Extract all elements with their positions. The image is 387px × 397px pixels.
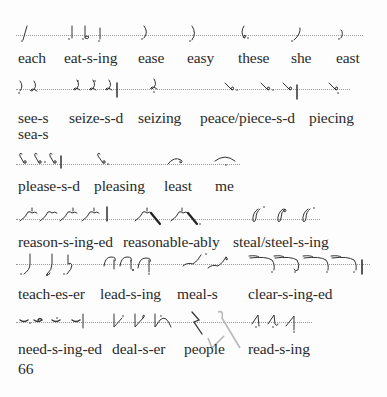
shorthand-outline-icon xyxy=(18,24,363,48)
page-number: 66 xyxy=(18,360,34,378)
shorthand-outline-icon xyxy=(18,252,378,286)
word-label-sea: sea-s xyxy=(18,126,49,142)
word-label-least: least xyxy=(164,178,192,194)
word-label-piecing: piecing xyxy=(309,110,354,126)
word-label-people: people xyxy=(184,341,225,357)
word-label-clear: clear-s-ing-ed xyxy=(248,286,332,302)
word-label-meal: meal-s xyxy=(177,286,218,302)
word-label-each: each xyxy=(18,50,46,66)
word-label-peace-piece: peace/piece-s-d xyxy=(200,110,295,126)
shorthand-outline-icon xyxy=(18,79,358,107)
word-label-she: she xyxy=(291,50,311,66)
textbook-page: each eat-s-ing ease easy these she east … xyxy=(0,0,387,397)
word-label-lead: lead-s-ing xyxy=(100,286,161,302)
word-label-eat: eat-s-ing xyxy=(64,50,117,66)
word-label-these: these xyxy=(238,50,269,66)
word-label-seize: seize-s-d xyxy=(69,110,123,126)
word-label-teach: teach-es-er xyxy=(18,286,85,302)
word-label-deal: deal-s-er xyxy=(112,341,165,357)
word-label-pleasing: pleasing xyxy=(94,178,145,194)
word-label-east: east xyxy=(336,50,360,66)
word-label-reason: reason-s-ing-ed xyxy=(18,234,113,250)
word-label-easy: easy xyxy=(187,50,214,66)
word-label-me: me xyxy=(215,178,234,194)
word-label-reasonable: reasonable-ably xyxy=(123,234,220,250)
word-label-steal-steel: steal/steel-s-ing xyxy=(233,234,329,250)
word-label-ease: ease xyxy=(138,50,164,66)
shorthand-outline-icon xyxy=(18,152,248,178)
word-label-see: see-s xyxy=(18,110,49,126)
word-label-need: need-s-ing-ed xyxy=(18,341,102,357)
word-label-read: read-s-ing xyxy=(248,341,310,357)
word-label-seizing: seizing xyxy=(138,110,181,126)
word-label-please: please-s-d xyxy=(18,178,80,194)
